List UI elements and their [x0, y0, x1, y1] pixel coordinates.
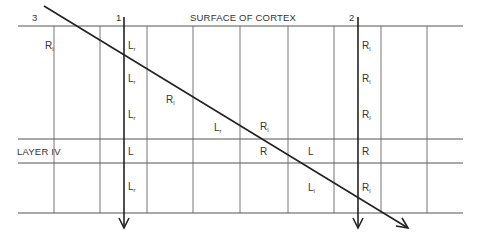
- electrode-1-label: 1: [116, 13, 121, 23]
- surface-of-cortex-title: SURFACE OF CORTEX: [190, 13, 296, 23]
- cell-label-subscript: r: [134, 115, 136, 121]
- cell-label-base: R: [260, 146, 267, 157]
- cell-label: Lr: [128, 110, 136, 121]
- cell-label-subscript: l: [369, 188, 370, 194]
- cell-label: R: [260, 147, 267, 157]
- electrode-3-arrow: [44, 6, 408, 228]
- cell-label: L: [128, 147, 134, 157]
- cell-label-subscript: r: [134, 79, 136, 85]
- cell-label: L: [308, 147, 314, 157]
- cell-label-subscript: r: [134, 46, 136, 52]
- cell-label: Lr: [128, 74, 136, 85]
- cell-label-base: L: [128, 146, 134, 157]
- cell-label: Rl: [362, 183, 371, 194]
- cell-label: Rl: [362, 41, 371, 52]
- cell-label: Rl: [362, 110, 371, 121]
- cell-label: Lr: [128, 41, 136, 52]
- cortex-electrode-diagram: [0, 0, 478, 238]
- cell-label-subscript: l: [369, 46, 370, 52]
- cell-label: Rl: [166, 95, 175, 106]
- cell-label-subscript: l: [314, 188, 315, 194]
- cell-label: Ll: [308, 183, 315, 194]
- cell-label: Rl: [45, 41, 54, 52]
- cell-label-subscript: r: [134, 187, 136, 193]
- cell-label-base: L: [308, 146, 314, 157]
- cell-label-subscript: l: [369, 115, 370, 121]
- cell-label: Rl: [362, 74, 371, 85]
- cell-label-base: R: [362, 146, 369, 157]
- column-boundaries: [54, 26, 427, 213]
- cell-label-subscript: l: [52, 46, 53, 52]
- cell-label: R: [362, 147, 369, 157]
- cell-label-subscript: r: [220, 128, 222, 134]
- electrode-3-label: 3: [32, 13, 37, 23]
- cell-label-subscript: l: [173, 100, 174, 106]
- cell-label-subscript: l: [369, 79, 370, 85]
- cell-label-subscript: l: [267, 127, 268, 133]
- electrode-2-label: 2: [349, 13, 354, 23]
- cell-label: Lr: [214, 123, 222, 134]
- horizontal-grid-lines: [18, 26, 463, 213]
- cell-label: Rl: [260, 122, 269, 133]
- cell-label: Lr: [128, 182, 136, 193]
- layer-iv-label: LAYER IV: [17, 147, 61, 157]
